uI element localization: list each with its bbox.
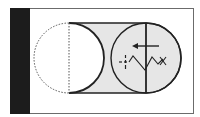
capsule-diagram [0,0,200,117]
black-side-bar [10,8,30,114]
